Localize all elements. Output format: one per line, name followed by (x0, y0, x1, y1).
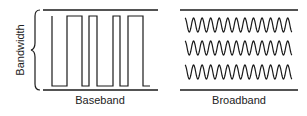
curly-brace-icon (31, 10, 40, 90)
sine-wave-channel-1 (185, 18, 292, 32)
bandwidth-label: Bandwidth (14, 24, 26, 75)
sine-wave-channel-2 (185, 41, 292, 55)
square-wave-signal (52, 16, 150, 86)
baseband-panel: Baseband (43, 10, 158, 106)
broadband-panel: Broadband (180, 10, 298, 106)
baseband-vs-broadband-diagram: Bandwidth Baseband Broadband (0, 0, 307, 116)
baseband-label: Baseband (75, 94, 125, 106)
broadband-label: Broadband (212, 94, 266, 106)
sine-wave-channel-3 (185, 65, 292, 79)
bandwidth-axis: Bandwidth (14, 10, 40, 90)
